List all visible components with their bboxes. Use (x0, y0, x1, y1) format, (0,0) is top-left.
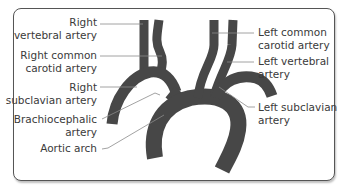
label-line: carotid artery (20, 62, 97, 75)
label-line: Right (14, 16, 97, 29)
label-line: vertebral artery (14, 29, 97, 42)
label-line: Right (6, 81, 97, 94)
left-common-carotid-vessel (198, 20, 214, 98)
label-aortic-arch: Aortic arch (40, 142, 97, 155)
label-line: Right common (20, 49, 97, 62)
label-right-subclavian-artery: Right subclavian artery (6, 81, 97, 107)
label-line: Left vertebral (258, 55, 329, 68)
vessels (112, 20, 272, 170)
label-line: artery (258, 114, 337, 127)
label-right-vertebral-artery: Right vertebral artery (14, 16, 97, 42)
label-line: carotid artery (258, 39, 330, 52)
label-right-common-carotid-artery: Right common carotid artery (20, 49, 97, 75)
label-line: Brachiocephalic (14, 113, 97, 126)
label-brachiocephalic-artery: Brachiocephalic artery (14, 113, 97, 139)
label-line: Left common (258, 26, 330, 39)
label-left-subclavian-artery: Left subclavian artery (258, 101, 337, 127)
label-line: Left subclavian (258, 101, 337, 114)
aortic-arch-vessel (154, 96, 239, 170)
label-line: Aortic arch (40, 142, 97, 155)
label-line: artery (258, 68, 329, 81)
label-line: subclavian artery (6, 94, 97, 107)
label-left-vertebral-artery: Left vertebral artery (258, 55, 329, 81)
label-line: artery (14, 126, 97, 139)
label-left-common-carotid-artery: Left common carotid artery (258, 26, 330, 52)
